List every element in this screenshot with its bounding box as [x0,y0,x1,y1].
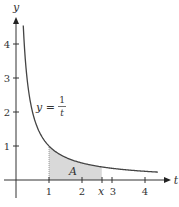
y-tick-label-2: 2 [4,107,10,118]
x-tick-label-1: 1 [46,186,52,197]
x-axis-label: t [174,174,179,187]
y-tick-label-1: 1 [4,141,10,152]
x-marker-label: x [98,185,105,198]
y-tick-label-3: 3 [4,73,10,84]
x-tick-label-3: 3 [110,186,116,197]
curve-fraction-denominator: t [60,108,64,118]
curve-1-over-t [23,25,158,172]
x-tick-label-4: 4 [142,186,148,197]
curve-equation-label: y = [35,101,55,114]
area-label: A [68,165,77,178]
x-axis-arrow-icon [164,177,171,183]
y-tick-label-4: 4 [4,39,10,50]
chart-canvas: 1 2 x 3 4 1 2 3 4 y t y = 1 t A [0,0,179,207]
x-tick-label-2: 2 [79,186,85,197]
y-axis-label: y [12,1,20,14]
y-axis-arrow-icon [13,17,19,24]
curve-fraction-numerator: 1 [59,95,65,105]
